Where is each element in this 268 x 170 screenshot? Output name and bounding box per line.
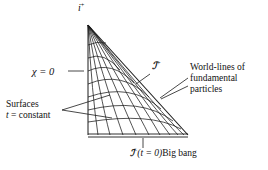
t-surface-7 [88,118,181,129]
scri-plus-leader [136,74,150,84]
figure-canvas: i+ χ = 0 ℐ+ World-lines of fundamental p… [0,0,268,170]
label-timelike-infinity: i+ [78,2,84,14]
t-surface-3 [88,67,134,83]
t-surface-5 [88,92,161,109]
big-bang-time: (t = 0) [137,148,162,158]
label-world-lines: World-lines of fundamental particles [190,62,245,96]
world-lines-line-1: World-lines of [190,62,245,73]
world-lines-line-2: fundamental [190,73,245,84]
label-surfaces-t-constant: Surfaces t = constant [6,99,50,121]
chi-zero-text: χ = 0 [32,66,54,77]
big-bang-name: Big bang [162,148,197,158]
surfaces-line-2: t = constant [6,110,50,121]
label-chi-zero: χ = 0 [32,66,54,78]
label-scri-plus: ℐ+ [152,60,161,72]
label-big-bang: ℐ−(t = 0)Big bang [130,147,197,159]
world-lines-line-3: particles [190,84,245,95]
i-superscript: + [81,1,85,8]
surfaces-line-1: Surfaces [6,99,50,110]
scri-plus-superscript: + [157,59,161,66]
t-constant-rest: = constant [9,110,51,120]
